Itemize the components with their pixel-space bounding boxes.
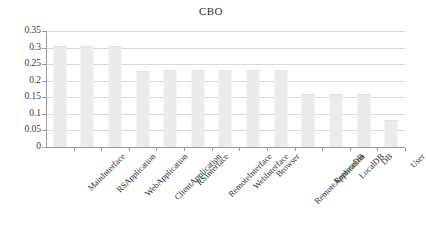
y-axis-tick-mark bbox=[42, 147, 46, 148]
x-axis-tick-mark bbox=[239, 148, 240, 151]
y-axis-tick-mark bbox=[42, 114, 46, 115]
bar[interactable] bbox=[136, 71, 149, 147]
y-axis-tick-label: 0.25 bbox=[3, 59, 41, 69]
bar[interactable] bbox=[81, 46, 94, 147]
y-axis-tick-label: 0.3 bbox=[3, 43, 41, 53]
y-axis-tick-label: 0.1 bbox=[3, 109, 41, 119]
bar-slot bbox=[74, 31, 102, 147]
x-axis-tick-mark bbox=[405, 148, 406, 151]
bar[interactable] bbox=[53, 46, 66, 147]
bar-slot bbox=[350, 31, 378, 147]
bar-slot bbox=[239, 31, 267, 147]
bar[interactable] bbox=[109, 46, 122, 147]
x-axis-tick-mark bbox=[295, 148, 296, 151]
x-axis-tick-mark bbox=[74, 148, 75, 151]
y-axis-tick-label: 0 bbox=[3, 142, 41, 152]
bars-layer bbox=[46, 31, 405, 147]
x-axis-category-label: User bbox=[408, 152, 426, 170]
bar[interactable] bbox=[164, 70, 177, 147]
x-axis-tick-mark bbox=[350, 148, 351, 151]
bar-slot bbox=[295, 31, 323, 147]
bar-slot bbox=[156, 31, 184, 147]
x-axis-tick-mark bbox=[377, 148, 378, 151]
y-axis-tick-mark bbox=[42, 31, 46, 32]
x-axis-tick-mark bbox=[322, 148, 323, 151]
bar[interactable] bbox=[357, 94, 370, 147]
x-axis-baseline bbox=[46, 147, 405, 148]
bar-slot bbox=[377, 31, 405, 147]
y-axis-tick-label: 0.15 bbox=[3, 92, 41, 102]
bar[interactable] bbox=[329, 94, 342, 147]
x-axis-tick-mark bbox=[129, 148, 130, 151]
x-axis-tick-mark bbox=[184, 148, 185, 151]
bar[interactable] bbox=[247, 70, 260, 147]
y-axis-tick-label: 0.2 bbox=[3, 76, 41, 86]
bar-slot bbox=[129, 31, 157, 147]
y-axis-tick-mark bbox=[42, 97, 46, 98]
bar[interactable] bbox=[219, 70, 232, 147]
y-axis-tick-mark bbox=[42, 48, 46, 49]
y-axis-tick-mark bbox=[42, 64, 46, 65]
y-axis-tick-label: 0.05 bbox=[3, 125, 41, 135]
y-axis-tick-label: 0.35 bbox=[3, 26, 41, 36]
bar-slot bbox=[267, 31, 295, 147]
x-axis-tick-mark bbox=[101, 148, 102, 151]
x-axis-tick-mark bbox=[267, 148, 268, 151]
y-axis-tick-mark bbox=[42, 81, 46, 82]
bar[interactable] bbox=[385, 120, 398, 147]
x-axis-tick-mark bbox=[156, 148, 157, 151]
bar-slot bbox=[101, 31, 129, 147]
bar-slot bbox=[46, 31, 74, 147]
bar[interactable] bbox=[191, 70, 204, 147]
x-axis-tick-mark bbox=[212, 148, 213, 151]
bar-slot bbox=[322, 31, 350, 147]
bar[interactable] bbox=[274, 70, 287, 147]
chart-title: CBO bbox=[0, 5, 422, 17]
bar-slot bbox=[184, 31, 212, 147]
y-axis-tick-mark bbox=[42, 130, 46, 131]
bar[interactable] bbox=[302, 94, 315, 147]
bar-slot bbox=[212, 31, 240, 147]
